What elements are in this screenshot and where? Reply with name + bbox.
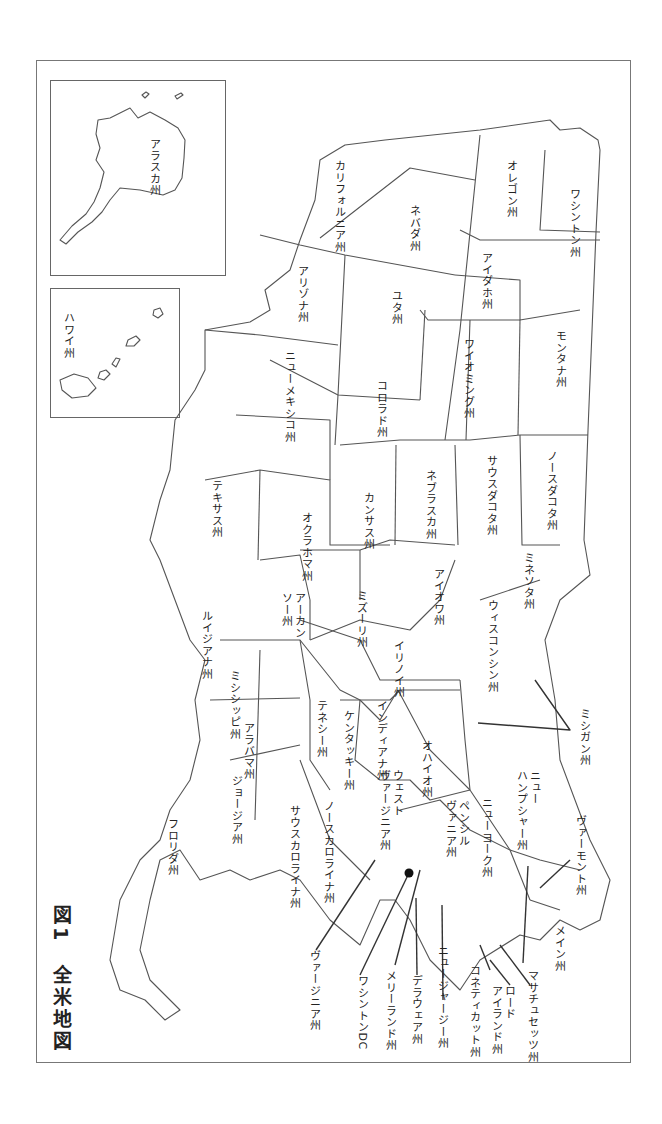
label-pennsylvania: ペンシル ヴァニア州 (444, 800, 470, 858)
label-arizona: アリゾナ州 (296, 265, 309, 323)
label-south-dakota: サウスダコタ州 (485, 455, 498, 536)
label-idaho: アイダホ州 (480, 252, 493, 310)
label-virginia: ヴァージニア州 (308, 950, 321, 1031)
label-connecticut: コネティカット州 (468, 965, 481, 1057)
label-florida: フロリダ州 (166, 818, 179, 876)
label-delaware: デラウェア州 (410, 975, 423, 1044)
label-wisconsin: ウィスコンシン州 (486, 600, 499, 692)
label-louisiana: ルイジアナ州 (200, 610, 213, 679)
label-maine: メイン州 (553, 925, 566, 971)
label-oklahoma: オクラホマ州 (300, 512, 313, 581)
rhode-island-leader (490, 960, 510, 985)
label-nevada: ネバダ州 (408, 205, 421, 251)
label-colorado: コロラド州 (375, 380, 388, 438)
label-alabama: アラバマ州 (242, 722, 255, 780)
label-oregon: オレゴン州 (505, 160, 518, 218)
label-indiana: インディアナ州 (375, 700, 388, 781)
label-illinois: イリノイ州 (392, 640, 405, 698)
label-texas: テキサス州 (210, 480, 223, 538)
label-missouri: ミズーリ州 (355, 590, 368, 648)
washington-dc-leader (360, 875, 408, 975)
label-tennessee: テネシー州 (315, 700, 328, 758)
label-alaska: アラスカ州 (148, 138, 161, 196)
label-new-york: ニューヨーク州 (480, 797, 493, 878)
label-nebraska: ネブラスカ州 (424, 470, 437, 539)
label-rhode-island: ロード アイランド州 (490, 985, 516, 1054)
label-utah: ユタ州 (390, 290, 403, 325)
label-new-jersey: ニュージャージー州 (436, 945, 449, 1049)
label-maryland: メリーランド州 (384, 970, 397, 1051)
alaska-shape (60, 108, 185, 244)
label-minnesota: ミネソタ州 (522, 552, 535, 610)
label-mississippi: ミシシッピ州 (228, 670, 241, 739)
new-hampshire-leader (523, 866, 528, 963)
label-washington: ワシントン州 (568, 188, 581, 257)
label-kentucky: ケンタッキー州 (342, 710, 355, 791)
washington-dc-marker (405, 869, 414, 878)
label-new-hampshire: ニュー ハンプシャー州 (515, 770, 541, 851)
label-georgia: ジョージア州 (230, 775, 243, 844)
label-massachusetts: マサチュセッツ州 (526, 970, 539, 1062)
label-arkansas: アーカン ソー州 (280, 592, 306, 638)
figure-caption: 図1全米地図 (48, 905, 75, 1053)
label-kansas: カンサス州 (362, 492, 375, 550)
label-north-dakota: ノースダコタ州 (545, 450, 558, 531)
label-hawaii: ハワイ州 (62, 312, 75, 358)
figure-title: 全米地図 (50, 965, 72, 1053)
delaware-leader (416, 898, 417, 975)
label-montana: モンタナ州 (554, 330, 567, 388)
label-west-virginia: ウェスト ヴァージニア州 (378, 770, 404, 851)
label-vermont: ヴァーモント州 (574, 815, 587, 896)
figure-number: 図1 (50, 905, 72, 943)
hawaii-big-island (60, 374, 96, 398)
connecticut-leader (480, 945, 490, 970)
label-ohio: オハイオ州 (420, 740, 433, 798)
label-california: カリフォルニア州 (333, 160, 346, 252)
label-michigan: ミシガン州 (578, 708, 591, 766)
label-washington-dc: ワシントンDC (356, 975, 369, 1050)
label-iowa: アイオワ州 (432, 568, 445, 626)
label-new-mexico: ニューメキシコ州 (283, 350, 296, 442)
label-north-carolina: ノースカロライナ州 (322, 800, 335, 904)
label-wyoming: ワイオミング州 (462, 338, 475, 419)
label-south-carolina: サウスカロライナ州 (288, 805, 301, 909)
